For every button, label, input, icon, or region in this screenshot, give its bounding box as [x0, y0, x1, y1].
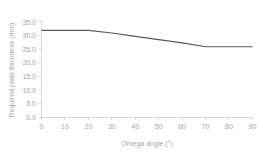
x-tick-label: 50 [155, 123, 163, 130]
y-tick-label: 15.0 [22, 73, 36, 80]
y-tick-label: 25.0 [22, 46, 36, 53]
line-chart: Required plate thickness (mm) 35.0 30.0 … [0, 0, 263, 156]
x-tick-label: 0 [40, 123, 44, 130]
x-tick-label: 20 [85, 123, 93, 130]
x-tick-label: 80 [225, 123, 233, 130]
x-axis-title: Omega angle (°) [121, 140, 172, 148]
x-tick-label: 30 [108, 123, 116, 130]
y-tick-label: 35.0 [22, 19, 36, 26]
y-tick-label: 30.0 [22, 32, 36, 39]
x-tick-label: 90 [249, 123, 257, 130]
x-tick-label: 40 [131, 123, 139, 130]
x-tick-label: 60 [178, 123, 186, 130]
chart-background [0, 0, 263, 156]
chart-canvas: Required plate thickness (mm) 35.0 30.0 … [0, 0, 263, 156]
y-tick-label: 0.0 [26, 114, 36, 121]
y-tick-label: 20.0 [22, 59, 36, 66]
x-tick-label: 70 [202, 123, 210, 130]
x-tick-label: 10 [61, 123, 69, 130]
y-axis-title: Required plate thickness (mm) [8, 23, 16, 118]
y-tick-label: 5.0 [26, 100, 36, 107]
y-tick-label: 10.0 [22, 87, 36, 94]
